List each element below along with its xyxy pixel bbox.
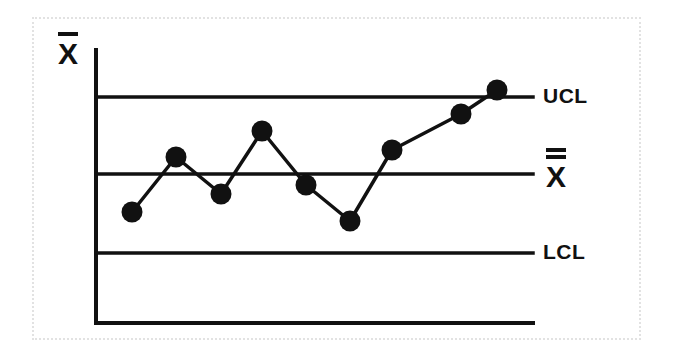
data-point-marker[interactable] (252, 121, 273, 142)
overbar-glyph-lower (546, 155, 566, 159)
y-axis-label-text: X (58, 39, 78, 69)
overbar-glyph (58, 32, 78, 36)
center-line-label: X (546, 148, 566, 192)
ucl-label: UCL (543, 85, 588, 106)
data-series-line (132, 90, 497, 221)
control-chart-plot (0, 0, 674, 357)
overbar-glyph-upper (546, 148, 566, 152)
data-point-marker[interactable] (211, 184, 232, 205)
data-point-marker[interactable] (122, 202, 143, 223)
data-point-marker[interactable] (296, 175, 317, 196)
data-point-marker[interactable] (487, 80, 508, 101)
lcl-label: LCL (543, 241, 585, 262)
center-line-label-text: X (546, 162, 566, 192)
data-point-marker[interactable] (166, 147, 187, 168)
data-point-marker[interactable] (382, 140, 403, 161)
data-point-marker[interactable] (340, 211, 361, 232)
y-axis-label: X (58, 32, 78, 69)
control-chart-figure: X UCL X LCL (0, 0, 674, 357)
data-point-marker[interactable] (451, 104, 472, 125)
